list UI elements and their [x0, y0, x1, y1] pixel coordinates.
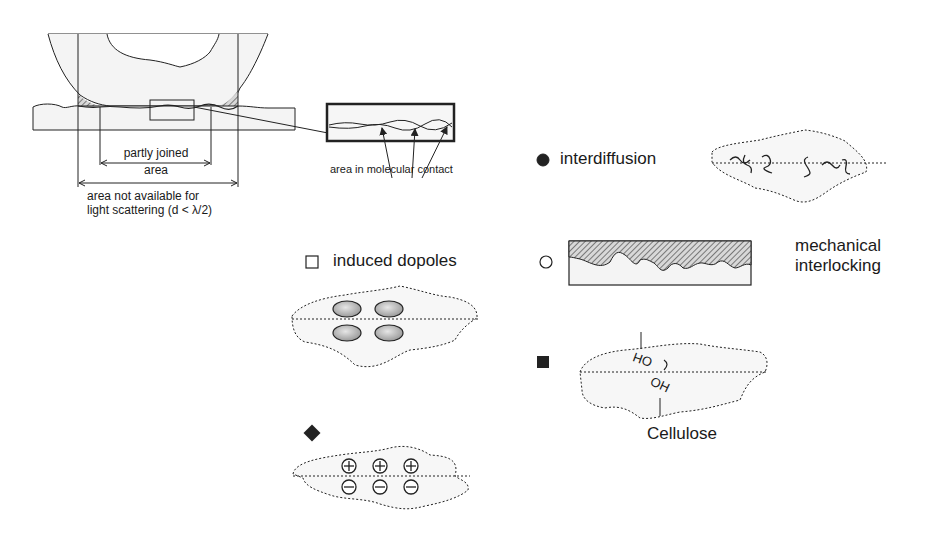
filled-diamond-icon [304, 425, 321, 442]
light-scattering-label: light scattering (d < λ/2) [87, 204, 212, 217]
interdiffusion-label: interdiffusion [560, 150, 656, 169]
positive-charges [342, 459, 418, 473]
molecular-contact-label: area in molecular contact [330, 163, 453, 175]
induced-dipoles-drawing [292, 256, 478, 367]
not-available-label: area not available for [87, 190, 199, 203]
negative-charges [342, 480, 418, 494]
partly-joined-label: partly joined [108, 147, 204, 160]
interlocking-label: interlocking [795, 257, 881, 276]
filled-circle-icon [537, 154, 549, 166]
induced-dipoles-label: induced dopoles [333, 252, 457, 271]
open-square-icon [306, 256, 318, 268]
filled-square-icon [537, 356, 549, 368]
electrostatic-drawing [293, 425, 470, 509]
cellulose-label: Cellulose [647, 425, 717, 444]
mechanical-interlocking-drawing [540, 241, 751, 285]
open-circle-icon [540, 256, 552, 268]
partly-joined-label-area: area [108, 164, 204, 177]
mechanical-label: mechanical [795, 237, 881, 256]
